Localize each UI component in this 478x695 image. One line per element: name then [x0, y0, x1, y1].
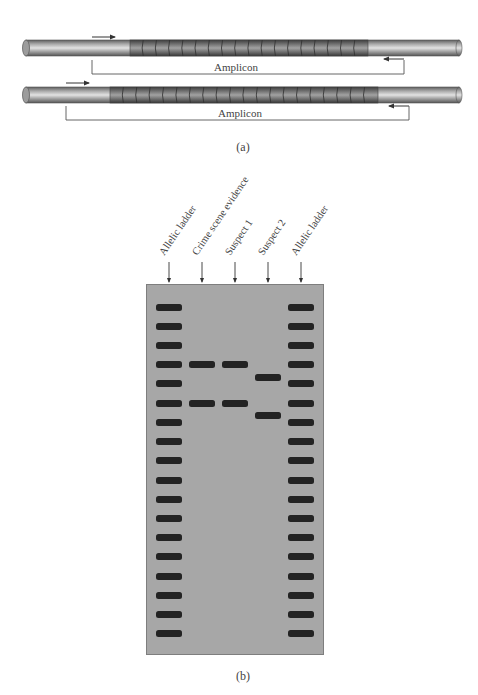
gel-band [288, 515, 314, 522]
gel-band [156, 400, 182, 407]
gel-band [288, 611, 314, 618]
gel-band [288, 438, 314, 445]
panel-b-gel-electrophoresis: Allelic ladderCrime scene evidenceSuspec… [0, 0, 478, 695]
gel-band [288, 496, 314, 503]
gel-band [156, 438, 182, 445]
gel-band [222, 400, 248, 407]
gel-band [288, 630, 314, 637]
gel-band [156, 534, 182, 541]
gel-band [288, 553, 314, 560]
gel [146, 284, 324, 655]
gel-band [156, 380, 182, 387]
lane-label: Suspect 2 [256, 217, 288, 257]
gel-band [288, 457, 314, 464]
gel-band [156, 304, 182, 311]
gel-band [288, 361, 314, 368]
gel-band [288, 573, 314, 580]
gel-band [189, 400, 215, 407]
gel-band [288, 534, 314, 541]
gel-band [156, 553, 182, 560]
gel-band [288, 419, 314, 426]
lane-label: Allelic ladder [289, 203, 330, 257]
lane-label: Crime scene evidence [190, 174, 251, 257]
gel-band [156, 630, 182, 637]
gel-band [189, 361, 215, 368]
gel-band [288, 400, 314, 407]
gel-band [288, 342, 314, 349]
gel-band [288, 304, 314, 311]
gel-band [156, 361, 182, 368]
gel-band [288, 592, 314, 599]
lane-label: Suspect 1 [223, 217, 255, 257]
gel-band [156, 573, 182, 580]
gel-band [156, 592, 182, 599]
gel-band [255, 412, 281, 419]
gel-band [156, 457, 182, 464]
gel-band [156, 611, 182, 618]
gel-band [288, 323, 314, 330]
gel-band [156, 323, 182, 330]
gel-band [288, 477, 314, 484]
gel-band [255, 374, 281, 381]
gel-band [156, 342, 182, 349]
caption-b: (b) [236, 669, 250, 684]
gel-band [156, 477, 182, 484]
gel-band [222, 361, 248, 368]
gel-band [156, 419, 182, 426]
gel-band [156, 496, 182, 503]
gel-band [156, 515, 182, 522]
gel-band [288, 380, 314, 387]
